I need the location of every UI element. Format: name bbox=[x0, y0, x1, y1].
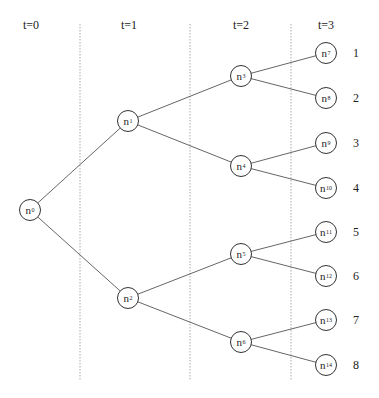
edge-n3-n8 bbox=[241, 76, 326, 98]
node-subscript: 12 bbox=[326, 273, 332, 279]
scenario-label-8: 8 bbox=[353, 358, 359, 373]
node-label: n bbox=[320, 270, 326, 282]
edge-n1-n4 bbox=[128, 121, 241, 166]
node-label: n bbox=[124, 292, 130, 304]
node-label: n bbox=[322, 92, 328, 104]
tree-node-n11: n11 bbox=[315, 221, 337, 243]
node-label: n bbox=[237, 70, 243, 82]
edge-n4-n10 bbox=[241, 166, 326, 188]
tree-node-n8: n8 bbox=[315, 87, 337, 109]
node-label: n bbox=[26, 204, 32, 216]
tree-node-n7: n7 bbox=[315, 42, 337, 64]
node-subscript: 11 bbox=[326, 229, 332, 235]
scenario-label-3: 3 bbox=[353, 136, 359, 151]
tree-node-n4: n4 bbox=[230, 155, 252, 177]
node-label: n bbox=[322, 137, 328, 149]
node-label: n bbox=[320, 182, 326, 194]
tree-node-n9: n9 bbox=[315, 132, 337, 154]
node-subscript: 10 bbox=[326, 185, 332, 191]
scenario-label-7: 7 bbox=[353, 313, 359, 328]
scenario-label-5: 5 bbox=[353, 225, 359, 240]
node-subscript: 0 bbox=[32, 207, 35, 213]
node-label: n bbox=[237, 336, 243, 348]
tree-node-n2: n2 bbox=[117, 287, 139, 309]
edge-n6-n13 bbox=[241, 320, 326, 342]
tree-node-n6: n6 bbox=[230, 331, 252, 353]
node-subscript: 4 bbox=[243, 163, 246, 169]
node-label: n bbox=[320, 226, 326, 238]
node-label: n bbox=[320, 359, 326, 371]
tree-node-n0: n0 bbox=[19, 199, 41, 221]
scenario-label-4: 4 bbox=[353, 181, 359, 196]
edge-n3-n7 bbox=[241, 53, 326, 76]
node-subscript: 7 bbox=[328, 50, 331, 56]
edge-n0-n2 bbox=[30, 210, 128, 298]
tree-node-n10: n10 bbox=[315, 177, 337, 199]
node-subscript: 1 bbox=[130, 118, 133, 124]
edge-n6-n14 bbox=[241, 342, 326, 365]
edge-n5-n12 bbox=[241, 254, 326, 276]
node-subscript: 3 bbox=[243, 73, 246, 79]
node-label: n bbox=[322, 47, 328, 59]
node-subscript: 8 bbox=[328, 95, 331, 101]
tree-node-n12: n12 bbox=[315, 265, 337, 287]
edge-n0-n1 bbox=[30, 121, 128, 210]
node-subscript: 9 bbox=[328, 140, 331, 146]
edge-n4-n9 bbox=[241, 143, 326, 166]
node-subscript: 5 bbox=[243, 251, 246, 257]
time-header-t0: t=0 bbox=[23, 18, 39, 33]
tree-node-n1: n1 bbox=[117, 110, 139, 132]
time-header-t1: t=1 bbox=[121, 18, 137, 33]
edge-n1-n3 bbox=[128, 76, 241, 121]
edge-n2-n5 bbox=[128, 254, 241, 298]
time-header-t3: t=3 bbox=[318, 18, 334, 33]
time-header-t2: t=2 bbox=[233, 18, 249, 33]
tree-node-n14: n14 bbox=[315, 354, 337, 376]
node-label: n bbox=[237, 160, 243, 172]
node-label: n bbox=[124, 115, 130, 127]
scenario-label-2: 2 bbox=[353, 91, 359, 106]
node-subscript: 13 bbox=[326, 317, 332, 323]
edge-n5-n11 bbox=[241, 232, 326, 254]
node-label: n bbox=[320, 314, 326, 326]
node-subscript: 2 bbox=[130, 295, 133, 301]
node-label: n bbox=[237, 248, 243, 260]
node-subscript: 14 bbox=[326, 362, 332, 368]
tree-node-n3: n3 bbox=[230, 65, 252, 87]
scenario-label-1: 1 bbox=[353, 46, 359, 61]
tree-node-n5: n5 bbox=[230, 243, 252, 265]
edge-n2-n6 bbox=[128, 298, 241, 342]
scenario-label-6: 6 bbox=[353, 269, 359, 284]
tree-node-n13: n13 bbox=[315, 309, 337, 331]
node-subscript: 6 bbox=[243, 339, 246, 345]
